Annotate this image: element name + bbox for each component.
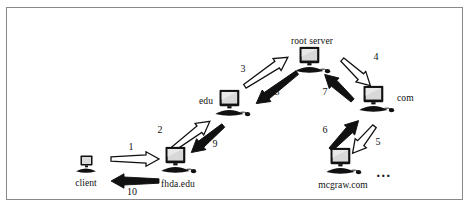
node-label-client: client	[75, 179, 97, 189]
desktop-computer-icon	[74, 155, 98, 179]
node-label-mcgraw: mcgraw.com	[318, 181, 368, 191]
node-label-edu: edu	[199, 97, 213, 107]
node-label-fhda: fhda.edu	[161, 180, 195, 190]
arrow-number-label: 1	[129, 142, 134, 152]
desktop-computer-icon	[323, 147, 363, 180]
dns-resolution-figure: 1 10 2 9 3 8 4 7 5 6 client fhda.edu	[0, 0, 471, 211]
arrow-number-label: 4	[374, 52, 379, 62]
arrow-number-label: 10	[127, 187, 137, 197]
arrow-number-label: 6	[323, 125, 328, 135]
desktop-computer-icon	[356, 85, 396, 118]
node-label-root: root server	[291, 37, 333, 47]
desktop-computer-icon	[212, 89, 252, 122]
figure-frame: 1 10 2 9 3 8 4 7 5 6 client fhda.edu	[6, 7, 463, 200]
arrow-number-label: 2	[158, 125, 163, 135]
arrow-number-label: 7	[323, 87, 328, 97]
desktop-computer-icon	[158, 146, 198, 179]
desktop-computer-icon	[292, 46, 332, 79]
arrow-number-label: 3	[241, 64, 246, 74]
arrow-number-label: 5	[376, 137, 381, 147]
more-servers-ellipsis: ...	[377, 166, 392, 180]
node-label-com: com	[397, 94, 414, 104]
arrow-number-label: 9	[213, 139, 218, 149]
arrow-number-label: 8	[275, 87, 280, 97]
